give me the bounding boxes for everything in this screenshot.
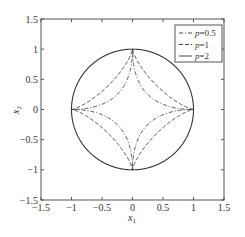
y-tick-label: −1 bbox=[27, 164, 38, 175]
legend-label: p=0.5 bbox=[194, 28, 216, 38]
x-tick-label: −0.5 bbox=[93, 202, 111, 213]
x-axis-label: x1 bbox=[127, 212, 136, 225]
y-tick-label: 1.5 bbox=[26, 14, 39, 25]
y-tick-label: 0.5 bbox=[26, 74, 39, 85]
y-tick-label: −1.5 bbox=[20, 195, 38, 206]
curve-p-0.5 bbox=[72, 49, 194, 170]
curve-p-2 bbox=[72, 49, 194, 170]
x-tick-label: 1 bbox=[191, 202, 196, 213]
legend-label: p=2 bbox=[194, 51, 209, 61]
x-tick-label: 1.5 bbox=[218, 202, 231, 213]
y-tick-label: 1 bbox=[33, 44, 38, 55]
plot-curves bbox=[72, 49, 194, 170]
legend-label: p=1 bbox=[194, 40, 209, 50]
x-tick-label: 0.5 bbox=[157, 202, 170, 213]
legend: p=0.5p=1p=2 bbox=[175, 25, 222, 62]
chart: −1.5−1−0.500.511.5 −1.5−1−0.500.511.5 x1… bbox=[0, 0, 245, 237]
y-tick-label: 0 bbox=[33, 104, 38, 115]
y-axis-label: x2 bbox=[10, 106, 23, 115]
curve-p-1 bbox=[72, 49, 194, 170]
y-tick-label: −0.5 bbox=[20, 134, 38, 145]
x-tick-label: −1 bbox=[66, 202, 77, 213]
